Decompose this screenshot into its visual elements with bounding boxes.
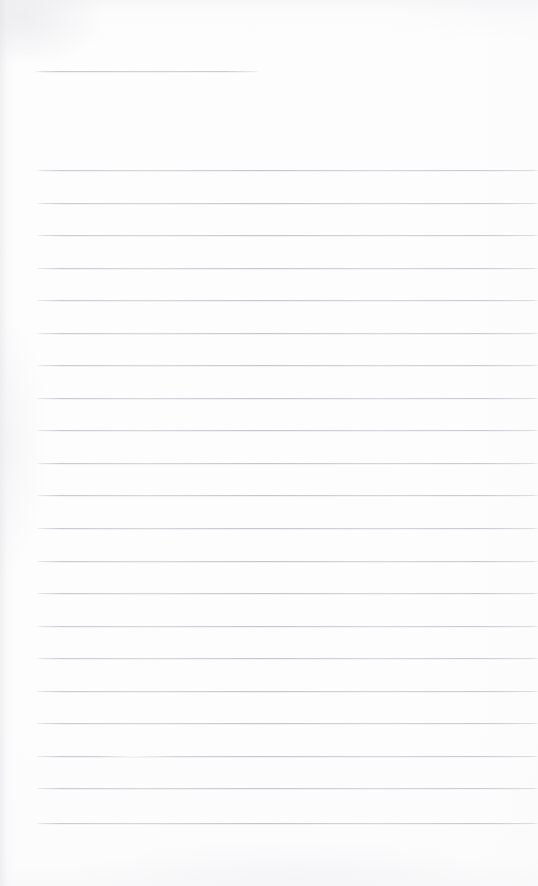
ruled-line [36,691,538,692]
ruled-line [36,365,538,366]
ruled-line [36,528,538,529]
ruled-line [36,756,538,757]
ruled-line [36,626,538,627]
ruled-line [36,300,538,301]
ruled-line [36,658,538,659]
ruled-line [36,463,538,464]
header-rule [34,71,259,72]
paper-tone-overlay [0,0,538,886]
ruled-line [36,203,538,204]
ruled-line [36,788,538,789]
ruled-line [36,823,538,824]
ruled-line [36,723,538,724]
ruled-line [36,268,538,269]
paper-mottle-overlay [0,0,538,886]
ruled-line [36,495,538,496]
ruled-line [36,561,538,562]
ruled-line [36,235,538,236]
ruled-line [36,170,538,171]
scanned-page [0,0,538,886]
ruled-line [36,593,538,594]
ruled-line [36,398,538,399]
ruled-line [36,430,538,431]
ruled-line [36,333,538,334]
